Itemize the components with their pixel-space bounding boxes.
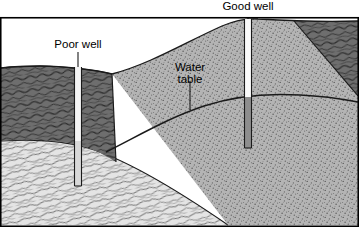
- water-table-label-line1: Water: [175, 61, 205, 73]
- poor-well-label: Poor well: [54, 38, 101, 50]
- good-well[interactable]: [245, 14, 252, 148]
- good-well-water-column: [245, 97, 252, 148]
- good-well-label: Good well: [222, 0, 273, 12]
- poor-well-casing-in-bedrock: [75, 141, 82, 186]
- geological-cross-section-figure: Poor well Good well Water table: [0, 0, 359, 227]
- poor-well[interactable]: [75, 52, 82, 186]
- water-table-label-line2: table: [178, 73, 203, 85]
- cross-section-canvas: Poor well Good well Water table: [0, 0, 359, 227]
